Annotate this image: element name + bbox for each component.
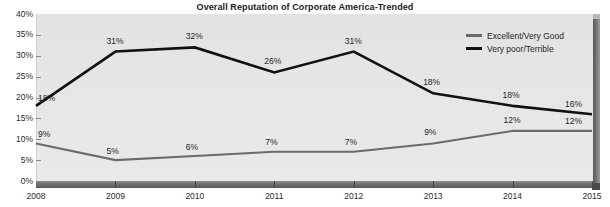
x-axis-tick [354, 181, 355, 188]
x-axis-tick-label: 2012 [324, 191, 384, 201]
plot-3d-right-panel [592, 19, 600, 185]
y-axis-tick-label: 40% [3, 10, 33, 19]
y-axis-tick-label: 20% [3, 93, 33, 102]
data-point-label: 12% [565, 117, 582, 126]
y-axis-tick [36, 56, 41, 57]
x-axis-tick [274, 181, 275, 188]
y-axis-tick [36, 139, 41, 140]
y-axis-tick [36, 160, 41, 161]
data-point-label: 31% [345, 37, 362, 46]
legend-item-excellent-very-good: Excellent/Very Good [466, 29, 592, 42]
data-point-label: 18% [38, 94, 55, 103]
legend-item-very-poor-terrible: Very poor/Terrible [466, 42, 592, 55]
y-axis-tick-label: 15% [3, 114, 33, 123]
data-point-label: 26% [264, 57, 281, 66]
x-axis-tick [115, 181, 116, 188]
data-point-label: 7% [265, 138, 277, 147]
legend-swatch-icon [466, 47, 482, 50]
x-axis-tick-label: 2015 [562, 191, 610, 201]
x-axis-band-side [592, 183, 600, 190]
y-axis-tick-label: 25% [3, 72, 33, 81]
x-axis-tick-label: 2010 [165, 191, 225, 201]
y-axis-tick [36, 118, 41, 119]
y-axis-tick-label: 0% [3, 177, 33, 186]
y-axis-tick [36, 77, 41, 78]
legend-swatch-icon [466, 34, 482, 37]
data-point-label: 31% [106, 37, 123, 46]
x-axis-band [36, 181, 592, 188]
y-axis-tick [36, 35, 41, 36]
data-point-label: 5% [106, 147, 118, 156]
y-axis-tick-label: 10% [3, 135, 33, 144]
y-axis: 40%35%30%25%20%15%10%5%0% [0, 0, 33, 207]
data-point-label: 7% [345, 138, 357, 147]
data-point-label: 18% [423, 78, 440, 87]
chart-container: Overall Reputation of Corporate America-… [0, 0, 610, 207]
x-axis-tick-label: 2009 [85, 191, 145, 201]
x-axis-tick [195, 181, 196, 188]
legend-item-label: Excellent/Very Good [487, 31, 564, 41]
data-point-label: 16% [565, 100, 582, 109]
x-axis-tick-label: 2014 [483, 191, 543, 201]
x-axis-tick-label: 2013 [403, 191, 463, 201]
chart-title: Overall Reputation of Corporate America-… [0, 2, 610, 12]
x-axis-tick-label: 2011 [244, 191, 304, 201]
x-axis-tick [513, 181, 514, 188]
data-point-label: 18% [503, 91, 520, 100]
data-point-label: 6% [186, 143, 198, 152]
y-axis-tick-label: 35% [3, 30, 33, 39]
legend-item-label: Very poor/Terrible [487, 44, 554, 54]
data-point-label: 12% [504, 116, 521, 125]
x-axis-tick [433, 181, 434, 188]
data-point-label: 9% [424, 128, 436, 137]
chart-legend: Excellent/Very Good Very poor/Terrible [466, 29, 592, 55]
x-axis-tick-label: 2008 [6, 191, 66, 201]
data-point-label: 32% [186, 32, 203, 41]
data-point-label: 9% [38, 130, 50, 139]
y-axis-tick-label: 30% [3, 51, 33, 60]
y-axis-tick-label: 5% [3, 156, 33, 165]
